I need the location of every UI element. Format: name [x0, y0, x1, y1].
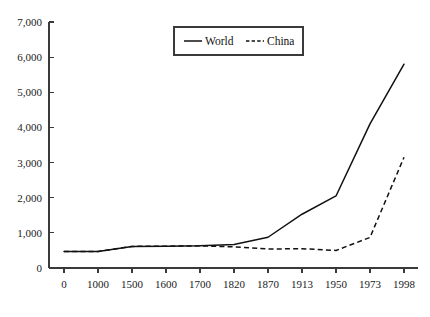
y-tick-label: 4,000	[17, 121, 42, 133]
line-chart: 01,0002,0003,0004,0005,0006,0007,000 010…	[0, 0, 430, 317]
x-tick-label: 1950	[325, 278, 348, 290]
x-tick-label: 1820	[223, 278, 246, 290]
series-line-china	[64, 157, 404, 251]
x-tick-label: 1973	[359, 278, 382, 290]
chart-container: 01,0002,0003,0004,0005,0006,0007,000 010…	[0, 0, 430, 317]
y-tick-label: 3,000	[17, 157, 42, 169]
series-line-world	[64, 64, 404, 251]
legend-label-world: World	[205, 35, 234, 47]
y-tick-label: 2,000	[17, 192, 42, 204]
x-tick-label: 1700	[189, 278, 212, 290]
y-tick-label: 0	[37, 262, 43, 274]
x-tick-label: 1913	[291, 278, 314, 290]
x-axis: 0100015001600170018201870191319501973199…	[61, 268, 415, 290]
x-tick-label: 1870	[257, 278, 280, 290]
chart-legend: WorldChina	[174, 27, 303, 55]
x-tick-label: 1000	[87, 278, 110, 290]
y-tick-label: 1,000	[17, 227, 42, 239]
x-tick-label: 1998	[393, 278, 416, 290]
x-tick-label: 1500	[121, 278, 144, 290]
legend-label-china: China	[267, 35, 294, 47]
y-tick-label: 7,000	[17, 16, 42, 28]
y-tick-label: 6,000	[17, 51, 42, 63]
x-tick-label: 1600	[155, 278, 178, 290]
y-tick-label: 5,000	[17, 86, 42, 98]
x-tick-label: 0	[61, 278, 67, 290]
